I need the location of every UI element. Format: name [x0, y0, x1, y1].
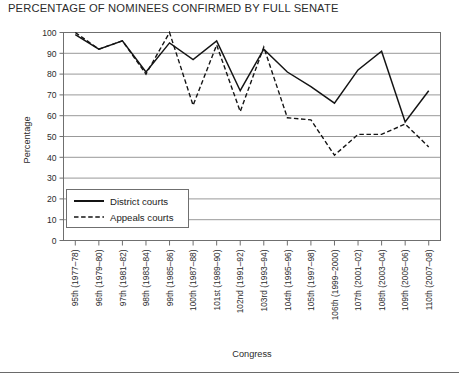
- legend-label-appeals-courts: Appeals courts: [110, 212, 174, 223]
- x-axis-ticks: [75, 241, 428, 246]
- y-tick-label: 10: [47, 215, 57, 225]
- legend-label-district-courts: District courts: [110, 196, 168, 207]
- y-tick-label: 60: [47, 111, 57, 121]
- y-axis-title: Percentage: [22, 117, 32, 164]
- x-category-label: 110th (2007–08): [424, 249, 434, 310]
- x-axis-category-labels: 95th (1977–78)96th (1979–80)97th (1981–8…: [70, 249, 433, 320]
- x-axis-title: Congress: [232, 349, 272, 359]
- x-category-label: 97th (1981–82): [118, 249, 128, 306]
- x-category-label: 104th (1995–96): [283, 249, 293, 311]
- y-tick-label: 70: [47, 90, 57, 100]
- series-district-courts: [75, 35, 428, 122]
- x-category-label: 108th (2003–04): [377, 249, 387, 311]
- x-category-label: 109th (2005–06): [400, 249, 410, 311]
- y-tick-label: 20: [47, 194, 57, 204]
- x-category-label: 98th (1983–84): [141, 249, 151, 306]
- x-category-label: 102nd (1991–92): [235, 249, 245, 313]
- x-category-label: 106th (1999–2000): [330, 249, 340, 320]
- x-category-label: 99th (1985–86): [165, 249, 175, 306]
- y-tick-label: 40: [47, 153, 57, 163]
- x-category-label: 105th (1997–98): [306, 249, 316, 311]
- y-tick-label: 50: [47, 132, 57, 142]
- x-category-label: 101st (1989–90): [212, 249, 222, 310]
- y-tick-label: 0: [52, 236, 57, 246]
- x-category-label: 100th (1987–88): [188, 249, 198, 311]
- x-category-label: 103rd (1993–94): [259, 249, 269, 311]
- y-tick-label: 30: [47, 173, 57, 183]
- legend: District courts Appeals courts: [67, 190, 189, 228]
- y-tick-label: 100: [42, 28, 57, 38]
- x-category-label: 107th (2001–02): [353, 249, 363, 311]
- x-category-label: 95th (1977–78): [70, 249, 80, 306]
- x-category-label: 96th (1979–80): [94, 249, 104, 306]
- x-axis-title-text: Congress: [232, 349, 272, 359]
- y-tick-label: 90: [47, 49, 57, 59]
- line-chart: 0102030405060708090100 95th (1977–78)96t…: [0, 0, 459, 387]
- y-tick-label: 80: [47, 69, 57, 79]
- y-axis-title-text: Percentage: [22, 117, 32, 164]
- page-bottom-divider: [0, 372, 459, 373]
- y-axis-ticks: 0102030405060708090100: [42, 28, 63, 246]
